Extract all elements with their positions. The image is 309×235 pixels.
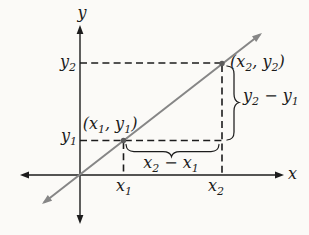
- slope-line-group: [42, 33, 262, 204]
- x-axis-arrow-left-icon: [20, 172, 29, 179]
- point-x1y1-dot: [121, 138, 126, 143]
- y-axis-label: y: [76, 3, 87, 22]
- y-axis-arrow-up-icon: [77, 25, 84, 34]
- y-axis-arrow-down-icon: [77, 215, 84, 224]
- run-label: x2 − x1: [143, 153, 199, 175]
- rise-brace: [227, 66, 239, 140]
- figure-canvas: y x y2 y1 x1 x2 (x1, y1) (x2, y2) x2 − x…: [0, 0, 309, 235]
- point-x2y2-dot: [219, 61, 224, 66]
- y2-tick-label: y2: [59, 52, 76, 74]
- x-axis-label: x: [288, 164, 297, 183]
- point-x1y1-label: (x1, y1): [83, 114, 138, 136]
- line-through-points: [44, 35, 260, 203]
- y1-tick-label: y1: [60, 126, 77, 148]
- x2-tick-label: x2: [208, 176, 224, 198]
- labels: y x y2 y1 x1 x2 (x1, y1) (x2, y2) x2 − x…: [59, 3, 299, 198]
- point-x2y2-label: (x2, y2): [230, 52, 285, 74]
- slope-diagram: y x y2 y1 x1 x2 (x1, y1) (x2, y2) x2 − x…: [0, 0, 309, 235]
- x1-tick-label: x1: [116, 176, 132, 198]
- rise-label: y2 − y1: [242, 86, 299, 108]
- x-axis-arrow-right-icon: [275, 172, 284, 179]
